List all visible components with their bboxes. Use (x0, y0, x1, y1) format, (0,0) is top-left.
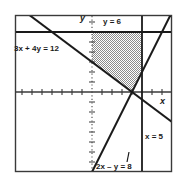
coordinate-plane-svg (0, 0, 184, 184)
graph-figure: y x y = 6 x = 5 3x + 4y = 12 2x – y = 8 (0, 0, 184, 184)
line-label-3x-plus-4y-equals-12: 3x + 4y = 12 (14, 45, 59, 53)
line-label-y-equals-6: y = 6 (103, 18, 121, 26)
x-axis-label: x (160, 97, 165, 106)
y-axis-label: y (80, 14, 85, 23)
line-label-x-equals-5: x = 5 (145, 133, 163, 141)
line-label-2x-minus-y-equals-8: 2x – y = 8 (96, 163, 132, 171)
